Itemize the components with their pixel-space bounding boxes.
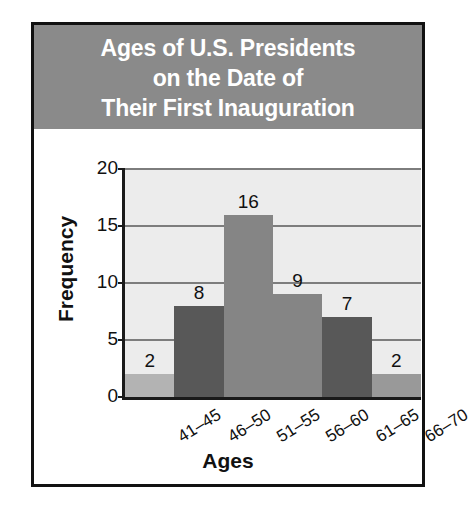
x-tick-label: 66–70 (421, 405, 472, 447)
bar (273, 294, 322, 397)
bar (174, 306, 223, 397)
x-tick-label: 51–55 (273, 405, 324, 447)
chart-title-banner: Ages of U.S. Presidents on the Date of T… (34, 25, 422, 129)
bar-cell: 7 (322, 169, 371, 397)
bar-value-label: 8 (174, 282, 223, 304)
bar (322, 317, 371, 397)
x-tick-label: 56–60 (323, 405, 374, 447)
x-tick-label: 41–45 (175, 405, 226, 447)
y-tick-label: 10 (74, 271, 118, 293)
bar-value-label: 9 (273, 270, 322, 292)
y-tick-label: 0 (74, 385, 118, 407)
y-tick-label: 15 (74, 214, 118, 236)
chart-title-line-3: Their First Inauguration (101, 93, 354, 123)
chart-title-line-2: on the Date of (153, 63, 304, 93)
bar-cell: 8 (174, 169, 223, 397)
x-tick-label: 61–65 (372, 405, 423, 447)
y-tick-label: 5 (74, 328, 118, 350)
bar-value-label: 7 (322, 293, 371, 315)
bar-cell: 2 (372, 169, 421, 397)
bar-value-label: 16 (224, 191, 273, 213)
bar (372, 374, 421, 397)
bar-cell: 9 (273, 169, 322, 397)
y-tick-label: 20 (74, 157, 118, 179)
bar-series: 2816972 (125, 169, 421, 397)
chart-plot-region: Frequency 05101520 2816972 41–4546–5051–… (34, 129, 422, 486)
bar (224, 215, 273, 397)
bar-cell: 2 (125, 169, 174, 397)
chart-title-line-1: Ages of U.S. Presidents (101, 33, 356, 63)
bar-value-label: 2 (372, 350, 421, 372)
chart-figure: Ages of U.S. Presidents on the Date of T… (31, 22, 425, 487)
bar (125, 374, 174, 397)
bar-value-label: 2 (125, 350, 174, 372)
plot-area: 2816972 (122, 169, 421, 400)
x-tick-label: 46–50 (224, 405, 275, 447)
bar-cell: 16 (224, 169, 273, 397)
x-axis-title: Ages (34, 449, 422, 473)
